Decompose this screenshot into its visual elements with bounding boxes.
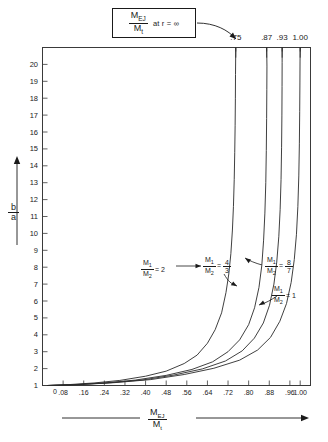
x-axis-arrow bbox=[62, 415, 309, 421]
curve-annotation: M1M2= 2 bbox=[141, 259, 165, 280]
y-tick-label: 19 bbox=[22, 77, 38, 86]
callout-fraction: MEJ Mt bbox=[129, 11, 148, 35]
annotation-value: = 1 bbox=[286, 292, 296, 299]
y-tick-label: 11 bbox=[22, 212, 38, 221]
curve bbox=[48, 48, 301, 386]
asymptote-ticks bbox=[236, 48, 300, 52]
y-tick-label: 7 bbox=[22, 280, 38, 289]
x-tick-label: .16 bbox=[73, 389, 95, 396]
curve bbox=[48, 48, 283, 386]
x-tick-label: .72 bbox=[217, 389, 239, 396]
annotation-fraction: M1M2 bbox=[141, 259, 154, 280]
callout-denominator-sub: t bbox=[141, 27, 143, 34]
y-tick-label: 1 bbox=[22, 381, 38, 390]
annotation-value: = 2 bbox=[155, 266, 165, 273]
y-tick-label: 4 bbox=[22, 330, 38, 339]
annotation-fraction: M1M2 bbox=[203, 256, 216, 277]
y-tick-label: 12 bbox=[22, 195, 38, 204]
callout-condition: at r = ∞ bbox=[153, 19, 179, 28]
asymptote-label: 1.00 bbox=[288, 33, 312, 42]
curve-annotation: M1M2= 87 bbox=[265, 256, 293, 277]
curve bbox=[48, 48, 236, 386]
plot-canvas bbox=[0, 0, 328, 442]
annotation-value: = 87 bbox=[279, 259, 293, 274]
curve-annotation: M1M2= 1 bbox=[272, 285, 296, 306]
annotation-fraction: M1M2 bbox=[272, 285, 285, 306]
annotation-value: = 43 bbox=[217, 259, 231, 274]
y-axis-title-den: a bbox=[8, 213, 19, 222]
curve-annotation: M1M2= 43 bbox=[203, 256, 231, 277]
y-axis-title: b a bbox=[8, 203, 19, 222]
y-tick-label: 18 bbox=[22, 94, 38, 103]
plot-frame bbox=[43, 48, 311, 386]
asymptote-lines bbox=[236, 48, 300, 58]
curve bbox=[48, 48, 267, 386]
y-tick-label: 8 bbox=[22, 263, 38, 272]
y-axis-arrow bbox=[14, 156, 20, 245]
callout-numerator-sub: EJ bbox=[138, 15, 146, 22]
x-tick-label: .48 bbox=[155, 389, 177, 396]
asymptote-label: .75 bbox=[224, 33, 248, 42]
y-tick-label: 10 bbox=[22, 229, 38, 238]
y-tick-label: 3 bbox=[22, 347, 38, 356]
y-tick-label: 14 bbox=[22, 161, 38, 170]
y-tick-label: 2 bbox=[22, 364, 38, 373]
x-axis-title-den-sub: t bbox=[160, 425, 162, 431]
axis-ticks bbox=[43, 64, 301, 385]
y-tick-label: 17 bbox=[22, 111, 38, 120]
x-tick-label: .08 bbox=[52, 389, 74, 396]
x-axis-title-num: M bbox=[150, 407, 158, 417]
y-tick-label: 9 bbox=[22, 246, 38, 255]
y-tick-label: 15 bbox=[22, 144, 38, 153]
figure-root: MEJ Mt at r = ∞ .75.87.931.00 2019181716… bbox=[0, 0, 328, 442]
y-tick-label: 16 bbox=[22, 128, 38, 137]
x-tick-label: .32 bbox=[114, 389, 136, 396]
callout-box: MEJ Mt at r = ∞ bbox=[112, 8, 196, 38]
y-tick-label: 5 bbox=[22, 313, 38, 322]
x-tick-label: .88 bbox=[258, 389, 280, 396]
data-curves bbox=[48, 48, 301, 386]
x-tick-label: .40 bbox=[135, 389, 157, 396]
y-tick-label: 13 bbox=[22, 178, 38, 187]
x-tick-label: .56 bbox=[176, 389, 198, 396]
x-axis-title: MEJ Mt bbox=[148, 408, 167, 431]
annotation-fraction: M1M2 bbox=[265, 256, 278, 277]
y-tick-label: 6 bbox=[22, 297, 38, 306]
y-tick-label: 20 bbox=[22, 60, 38, 69]
x-tick-label: .24 bbox=[93, 389, 115, 396]
x-tick-label: 1.00 bbox=[289, 389, 311, 396]
x-tick-label: .64 bbox=[196, 389, 218, 396]
x-tick-label: .80 bbox=[238, 389, 260, 396]
